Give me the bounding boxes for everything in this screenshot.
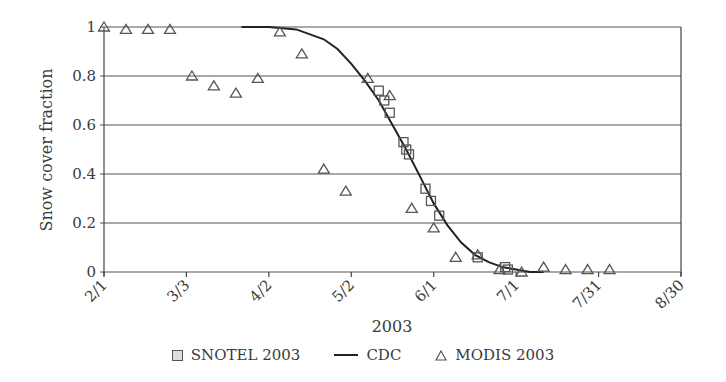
modis-triangle-marker — [538, 262, 549, 271]
modis-markers — [99, 22, 616, 276]
legend-label-cdc: CDC — [366, 346, 401, 364]
legend-label-modis: MODIS 2003 — [455, 346, 554, 364]
modis-triangle-marker — [362, 73, 373, 82]
gridlines — [100, 27, 681, 272]
legend-item-cdc: CDC — [334, 346, 401, 364]
modis-triangle-marker — [208, 81, 219, 90]
y-tick-labels: 00.20.40.60.81 — [72, 18, 96, 281]
x-tick-label: 5/2 — [328, 276, 358, 306]
square-marker-icon — [172, 350, 183, 361]
y-tick-label: 1 — [86, 18, 96, 36]
modis-triangle-marker — [120, 24, 131, 33]
x-tick-label: 7/31 — [569, 276, 606, 313]
legend-label-snotel: SNOTEL 2003 — [191, 346, 301, 364]
cdc-curve — [241, 27, 543, 272]
x-tick-label: 3/3 — [163, 276, 193, 306]
x-tick-labels: 2/13/34/25/26/17/17/318/30 — [81, 276, 688, 313]
legend-item-modis: MODIS 2003 — [435, 346, 554, 364]
x-axis-title: 2003 — [372, 317, 413, 336]
x-tick-label: 6/1 — [411, 276, 441, 306]
modis-triangle-marker — [428, 223, 439, 232]
modis-triangle-marker — [582, 265, 593, 274]
y-tick-label: 0.6 — [72, 116, 96, 134]
x-tick-label: 4/2 — [246, 276, 276, 306]
y-axis-title: Snow cover fraction — [37, 68, 56, 231]
y-tick-label: 0.2 — [72, 214, 96, 232]
modis-triangle-marker — [296, 49, 307, 58]
snotel-markers — [374, 86, 512, 274]
modis-triangle-marker — [560, 265, 571, 274]
legend-item-snotel: SNOTEL 2003 — [172, 346, 301, 364]
modis-triangle-marker — [450, 252, 461, 261]
x-tick-label: 8/30 — [651, 276, 688, 313]
modis-triangle-marker — [230, 88, 241, 97]
modis-triangle-marker — [384, 91, 395, 100]
modis-triangle-marker — [164, 24, 175, 33]
triangle-marker-icon — [435, 350, 447, 361]
modis-triangle-marker — [340, 186, 351, 195]
modis-triangle-marker — [252, 73, 263, 82]
line-icon — [334, 354, 358, 356]
x-tick-label: 7/1 — [493, 276, 523, 306]
modis-triangle-marker — [318, 164, 329, 173]
axes — [104, 27, 681, 277]
chart-plot: 00.20.40.60.81 2/13/34/25/26/17/17/318/3… — [0, 0, 726, 340]
y-tick-label: 0.8 — [72, 67, 96, 85]
modis-triangle-marker — [604, 265, 615, 274]
y-tick-label: 0.4 — [72, 165, 96, 183]
snotel-square-marker — [374, 86, 383, 95]
modis-triangle-marker — [406, 203, 417, 212]
modis-triangle-marker — [142, 24, 153, 33]
legend: SNOTEL 2003 CDC MODIS 2003 — [0, 344, 726, 366]
